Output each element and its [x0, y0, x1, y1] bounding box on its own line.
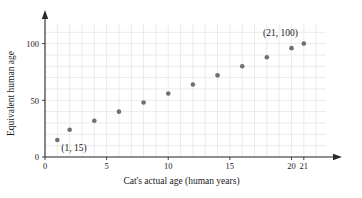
y-axis-arrowhead — [42, 10, 48, 19]
x-axis-label: Cat's actual age (human years) — [123, 176, 239, 187]
x-axis-arrowhead — [333, 154, 342, 160]
data-point — [166, 91, 171, 96]
y-axis-label: Equivalent human age — [6, 51, 16, 136]
y-tick-label: 100 — [26, 39, 39, 49]
data-point — [289, 46, 294, 51]
x-tick-label: 0 — [43, 161, 47, 171]
chart-canvas: 0510152021050100 (1, 15)(21, 100) Cat's … — [0, 0, 362, 198]
data-point — [92, 118, 97, 123]
data-point — [141, 100, 146, 105]
y-tick-label: 0 — [35, 152, 39, 162]
first-point-label: (1, 15) — [61, 143, 86, 154]
x-tick-label: 20 — [287, 161, 296, 171]
x-tick-label: 10 — [164, 161, 173, 171]
data-point — [67, 127, 72, 132]
data-point — [265, 55, 270, 60]
gridlines — [45, 24, 326, 157]
data-point — [191, 82, 196, 87]
data-point — [117, 109, 122, 114]
data-point — [55, 138, 60, 143]
data-point — [215, 73, 220, 78]
data-point — [302, 41, 307, 46]
scatter-chart-figure: 0510152021050100 (1, 15)(21, 100) Cat's … — [0, 0, 362, 198]
point-annotations: (1, 15)(21, 100) — [61, 28, 297, 154]
y-tick-label: 50 — [31, 96, 40, 106]
x-tick-label: 21 — [300, 161, 309, 171]
x-tick-label: 5 — [104, 161, 108, 171]
data-point — [240, 64, 245, 69]
last-point-label: (21, 100) — [263, 28, 298, 39]
x-tick-label: 15 — [226, 161, 235, 171]
